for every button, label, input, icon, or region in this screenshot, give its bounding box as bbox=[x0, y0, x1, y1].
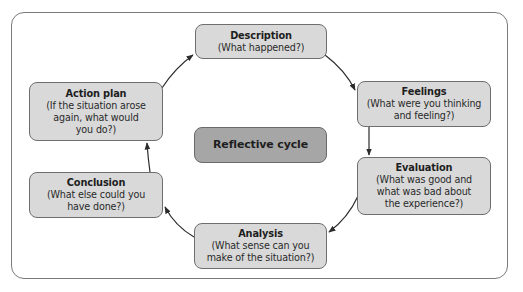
stage-desc: (What sense can you make of the situatio… bbox=[207, 240, 315, 264]
stage-feelings: Feelings (What were you thinking and fee… bbox=[357, 81, 491, 127]
stage-desc: (What was good and what was bad about th… bbox=[376, 174, 472, 210]
stage-desc: (If the situation arose again, what woul… bbox=[46, 100, 146, 136]
arrow-action-plan-to-description bbox=[162, 55, 193, 88]
stage-desc: (What happened?) bbox=[218, 42, 305, 54]
center-title: Reflective cycle bbox=[213, 139, 308, 151]
stage-evaluation: Evaluation (What was good and what was b… bbox=[357, 157, 491, 215]
stage-desc: (What else could you have done?) bbox=[47, 189, 145, 213]
stage-desc: (What were you thinking and feeling?) bbox=[367, 98, 482, 122]
stage-title: Conclusion bbox=[67, 177, 125, 189]
arrow-description-to-feelings bbox=[325, 55, 355, 90]
stage-conclusion: Conclusion (What else could you have don… bbox=[29, 172, 163, 218]
stage-title: Description bbox=[230, 30, 292, 42]
stage-title: Evaluation bbox=[396, 162, 453, 174]
stage-title: Analysis bbox=[238, 228, 283, 240]
stage-analysis: Analysis (What sense can you make of the… bbox=[194, 223, 327, 269]
stage-title: Feelings bbox=[402, 86, 447, 98]
arrow-conclusion-to-action-plan bbox=[147, 143, 150, 172]
arrow-evaluation-to-analysis bbox=[329, 196, 358, 232]
stage-action-plan: Action plan (If the situation arose agai… bbox=[29, 82, 163, 141]
stage-title: Action plan bbox=[66, 88, 127, 100]
stage-description: Description (What happened?) bbox=[195, 24, 327, 59]
arrow-analysis-to-conclusion bbox=[165, 207, 194, 237]
center-label-box: Reflective cycle bbox=[194, 127, 327, 163]
